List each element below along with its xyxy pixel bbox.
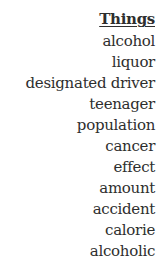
list-item: population	[26, 115, 155, 136]
list-item: amount	[26, 178, 155, 199]
list-item: effect	[26, 157, 155, 178]
list-item: teenager	[26, 94, 155, 115]
list-item: cancer	[26, 136, 155, 157]
list-item: accident	[26, 199, 155, 220]
list-item: alcoholic	[26, 241, 155, 262]
list-item: alcohol	[26, 31, 155, 52]
things-list: Things alcohol liquor designated driver …	[26, 9, 155, 262]
list-item: calorie	[26, 220, 155, 241]
list-header: Things	[26, 9, 155, 30]
list-item: liquor	[26, 52, 155, 73]
list-item: designated driver	[26, 73, 155, 94]
